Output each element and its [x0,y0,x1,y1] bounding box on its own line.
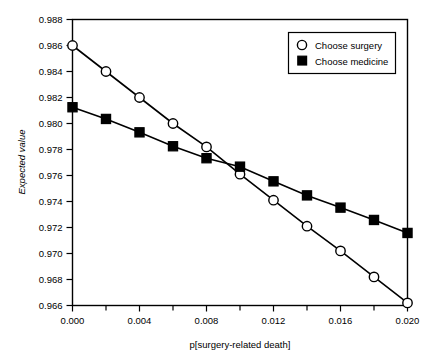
data-point-filled-square [336,203,345,212]
data-point-open-circle [369,272,378,281]
data-point-filled-square [202,154,211,163]
data-point-filled-square [235,162,244,171]
y-tick-label: 0.966 [39,300,63,311]
data-point-open-circle [68,41,77,50]
y-tick-label: 0.978 [39,144,63,155]
data-point-open-circle [101,67,110,76]
x-tick-label: 0.020 [396,315,420,326]
expected-value-line-chart: 0.9660.9680.9700.9720.9740.9760.9780.980… [0,0,433,363]
data-point-open-circle [135,93,144,102]
y-tick-label: 0.970 [39,248,63,259]
data-point-filled-square [168,142,177,151]
y-tick-label: 0.968 [39,274,63,285]
y-tick-label: 0.976 [39,170,63,181]
data-point-open-circle [403,298,412,307]
chart-page: 0.9660.9680.9700.9720.9740.9760.9780.980… [0,0,433,363]
data-point-filled-square [302,191,311,200]
legend-label-choose-medicine: Choose medicine [315,56,388,67]
data-point-filled-square [403,228,412,237]
y-tick-label: 0.986 [39,40,63,51]
data-point-open-circle [302,222,311,231]
data-point-filled-square [101,114,110,123]
x-tick-label: 0.004 [128,315,152,326]
y-tick-label: 0.980 [39,118,63,129]
data-point-open-circle [168,119,177,128]
x-tick-label: 0.000 [61,315,85,326]
legend-marker-filled-square-icon [298,56,307,65]
data-point-filled-square [135,128,144,137]
y-tick-label: 0.988 [39,14,63,25]
y-tick-label: 0.974 [39,196,63,207]
chart-legend[interactable]: Choose surgery Choose medicine [289,33,396,74]
x-axis-title: p[surgery-related death] [190,339,291,350]
legend-label-choose-surgery: Choose surgery [315,40,382,51]
y-tick-label: 0.982 [39,92,63,103]
x-tick-label: 0.008 [195,315,219,326]
data-point-filled-square [369,215,378,224]
data-point-open-circle [269,196,278,205]
data-point-open-circle [336,246,345,255]
legend-marker-open-circle-icon [297,40,306,49]
data-point-open-circle [202,142,211,151]
x-tick-label: 0.016 [329,315,353,326]
x-tick-label: 0.012 [262,315,286,326]
data-point-filled-square [68,103,77,112]
data-point-filled-square [269,177,278,186]
y-tick-label: 0.984 [39,66,63,77]
y-axis-title: Expected value [16,130,27,195]
y-tick-label: 0.972 [39,222,63,233]
